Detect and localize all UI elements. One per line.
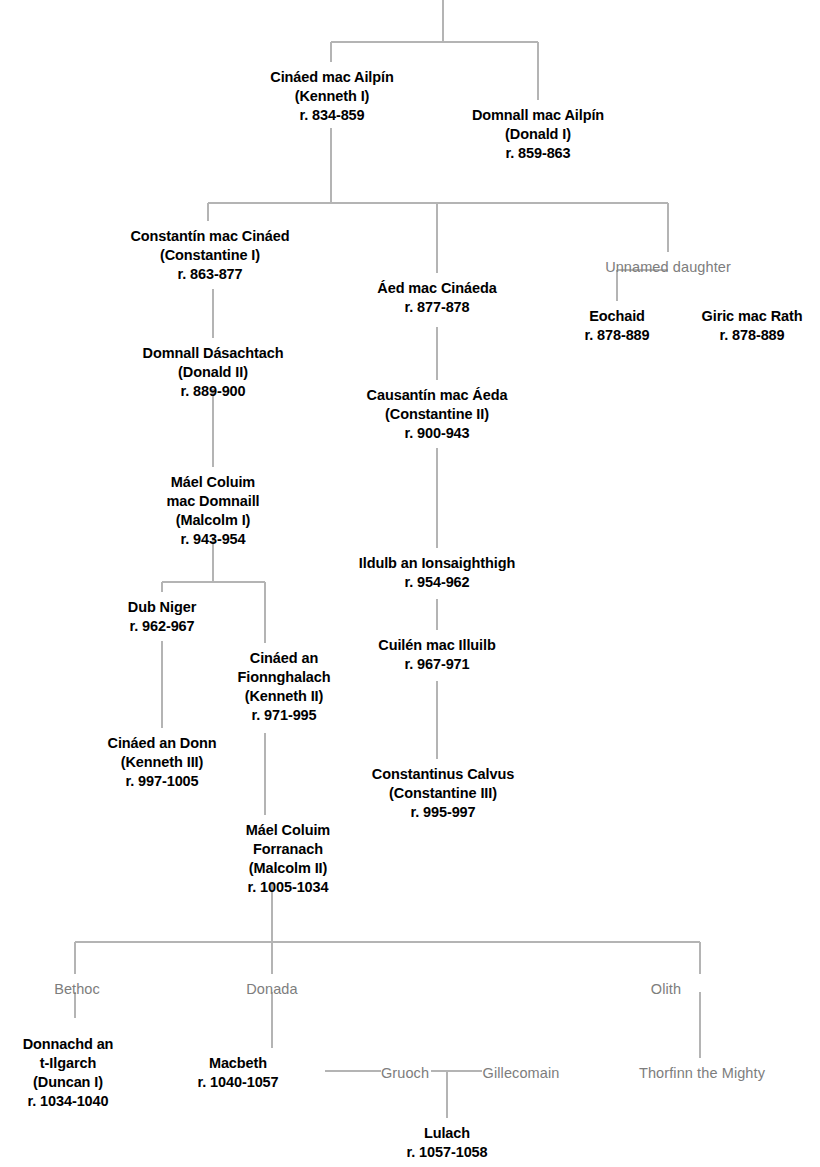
person-label-line: Donnachd an [23,1035,114,1054]
person-node-thorfinn: Thorfinn the Mighty [639,1064,765,1083]
person-label-line: r. 900-943 [367,424,508,443]
person-label-line: Cináed an Donn [108,734,217,753]
person-label-line: t-Ilgarch [23,1054,114,1073]
family-tree-diagram: Cináed mac Ailpín(Kenneth I)r. 834-859Do… [0,0,820,1167]
person-label-line: r. 878-889 [702,326,803,345]
person-label-line: Gillecomain [483,1064,560,1083]
person-label-line: Forranach [246,840,330,859]
person-label-line: Lulach [406,1124,487,1143]
person-label-line: r. 834-859 [270,106,393,125]
person-label-line: Unnamed daughter [605,258,731,277]
person-node-duncan1: Donnachd ant-Ilgarch(Duncan I)r. 1034-10… [23,1035,114,1110]
person-node-lulach: Lulachr. 1057-1058 [406,1124,487,1162]
person-label-line: r. 962-967 [128,617,196,636]
person-label-line: Domnall Dásachtach [143,344,284,363]
person-node-gillecomain: Gillecomain [483,1064,560,1083]
person-node-kenneth2: Cináed anFionnghalach(Kenneth II)r. 971-… [237,649,330,724]
person-node-donada: Donada [246,980,297,999]
person-label-line: (Constantine III) [372,784,514,803]
person-label-line: Máel Coluim [166,473,259,492]
person-label-line: (Kenneth II) [237,687,330,706]
person-label-line: r. 1057-1058 [406,1143,487,1162]
person-node-constantine2: Causantín mac Áeda(Constantine II)r. 900… [367,386,508,443]
person-node-olith: Olith [651,980,681,999]
person-label-line: r. 971-995 [237,706,330,725]
person-node-kenneth1: Cináed mac Ailpín(Kenneth I)r. 834-859 [270,68,393,125]
person-label-line: (Malcolm II) [246,859,330,878]
person-label-line: r. 1040-1057 [197,1073,278,1092]
person-label-line: r. 997-1005 [108,772,217,791]
person-label-line: r. 878-889 [584,326,649,345]
person-node-aed: Áed mac Cináedar. 877-878 [377,279,496,317]
person-node-malcolm2: Máel ColuimForranach(Malcolm II)r. 1005-… [246,821,330,896]
person-node-cuilen: Cuilén mac Illuilbr. 967-971 [378,636,495,674]
person-label-line: r. 954-962 [359,573,515,592]
person-label-line: r. 967-971 [378,655,495,674]
person-node-constantine3: Constantinus Calvus(Constantine III)r. 9… [372,765,514,822]
person-label-line: (Kenneth I) [270,87,393,106]
person-node-constantine1: Constantín mac Cináed(Constantine I)r. 8… [130,227,289,284]
person-label-line: (Constantine II) [367,405,508,424]
person-label-line: mac Domnaill [166,492,259,511]
person-node-kenneth3: Cináed an Donn(Kenneth III)r. 997-1005 [108,734,217,791]
person-label-line: Macbeth [197,1054,278,1073]
person-label-line: (Donald II) [143,363,284,382]
person-label-line: Cuilén mac Illuilb [378,636,495,655]
person-node-eochaid: Eochaidr. 878-889 [584,307,649,345]
person-label-line: r. 995-997 [372,803,514,822]
person-node-malcolm1: Máel Coluimmac Domnaill(Malcolm I)r. 943… [166,473,259,548]
person-label-line: (Donald I) [472,125,604,144]
person-node-gruoch: Gruoch [381,1064,429,1083]
person-label-line: (Duncan I) [23,1073,114,1092]
person-label-line: Causantín mac Áeda [367,386,508,405]
person-label-line: Bethoc [54,980,100,999]
person-label-line: Donada [246,980,297,999]
person-label-line: Áed mac Cináeda [377,279,496,298]
person-node-unnamed_dau: Unnamed daughter [605,258,731,277]
person-label-line: r. 943-954 [166,530,259,549]
person-label-line: Thorfinn the Mighty [639,1064,765,1083]
person-label-line: r. 1034-1040 [23,1092,114,1111]
person-label-line: Ildulb an Ionsaighthigh [359,554,515,573]
person-node-donald2: Domnall Dásachtach(Donald II)r. 889-900 [143,344,284,401]
person-node-bethoc: Bethoc [54,980,100,999]
person-label-line: Cináed an [237,649,330,668]
person-label-line: (Malcolm I) [166,511,259,530]
person-label-line: Máel Coluim [246,821,330,840]
person-label-line: Olith [651,980,681,999]
person-label-line: Constantinus Calvus [372,765,514,784]
person-label-line: r. 863-877 [130,265,289,284]
person-label-line: Constantín mac Cináed [130,227,289,246]
person-label-line: Eochaid [584,307,649,326]
person-node-dubniger: Dub Nigerr. 962-967 [128,598,196,636]
person-label-line: Dub Niger [128,598,196,617]
person-node-ildulb: Ildulb an Ionsaighthighr. 954-962 [359,554,515,592]
person-label-line: Fionnghalach [237,668,330,687]
person-label-line: r. 877-878 [377,298,496,317]
person-label-line: Cináed mac Ailpín [270,68,393,87]
person-node-giric: Giric mac Rathr. 878-889 [702,307,803,345]
person-label-line: r. 1005-1034 [246,878,330,897]
person-label-line: (Kenneth III) [108,753,217,772]
person-label-line: r. 859-863 [472,144,604,163]
person-label-line: r. 889-900 [143,382,284,401]
person-label-line: (Constantine I) [130,246,289,265]
person-label-line: Gruoch [381,1064,429,1083]
person-label-line: Giric mac Rath [702,307,803,326]
person-node-macbeth: Macbethr. 1040-1057 [197,1054,278,1092]
person-label-line: Domnall mac Ailpín [472,106,604,125]
person-node-donald1: Domnall mac Ailpín(Donald I)r. 859-863 [472,106,604,163]
